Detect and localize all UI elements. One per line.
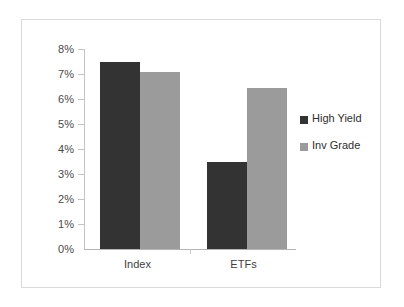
- bar-etfs-high-yield: [207, 162, 247, 250]
- y-axis-label-5: 5%: [48, 119, 74, 130]
- y-axis-label-3: 3%: [48, 169, 74, 180]
- legend-swatch-high-yield-icon: [300, 116, 308, 124]
- bar-chart: 8% 7% 6% 5% 4% 3% 2% 1% 0% Index ETFs Hi…: [0, 0, 404, 307]
- bar-index-high-yield: [100, 62, 140, 250]
- legend-item-inv-grade[interactable]: Inv Grade: [300, 139, 380, 166]
- x-axis-label-index: Index: [85, 258, 190, 271]
- y-axis-label-0: 0%: [48, 244, 74, 255]
- category-separator-tick: [190, 249, 191, 254]
- legend-label-inv-grade: Inv Grade: [312, 139, 360, 152]
- x-axis-label-etfs: ETFs: [191, 258, 296, 271]
- legend-item-high-yield[interactable]: High Yield: [300, 112, 380, 139]
- y-axis-label-4: 4%: [48, 144, 74, 155]
- legend-label-high-yield: High Yield: [312, 112, 362, 125]
- bar-index-inv-grade: [140, 72, 180, 250]
- y-axis-label-1: 1%: [48, 219, 74, 230]
- bar-etfs-inv-grade: [247, 88, 287, 249]
- y-axis-label-7: 7%: [48, 69, 74, 80]
- plot-area: [85, 49, 295, 249]
- y-axis-label-6: 6%: [48, 94, 74, 105]
- y-axis-label-2: 2%: [48, 194, 74, 205]
- y-axis-label-8: 8%: [48, 44, 74, 55]
- chart-legend: High Yield Inv Grade: [300, 112, 380, 166]
- legend-swatch-inv-grade-icon: [300, 143, 308, 151]
- y-axis-labels: 8% 7% 6% 5% 4% 3% 2% 1% 0%: [44, 0, 74, 307]
